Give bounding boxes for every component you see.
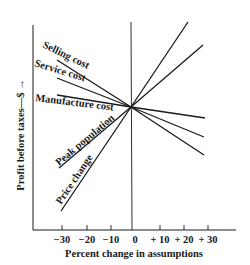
tick-label: −10 [103,234,119,245]
tick-label: + 30 [198,234,217,245]
label-manufacture-cost: Manufacture cost [35,92,115,113]
x-axis-title: Percent change in assumptions [65,248,203,259]
x-tick-labels: −30 −20 −10 0 + 10 + 20 + 30 [54,234,218,245]
sensitivity-chart: −30 −20 −10 0 + 10 + 20 + 30 Percent cha… [0,0,250,265]
tick-label: −20 [79,234,95,245]
tick-label: −30 [54,234,70,245]
line-price-change [61,22,188,211]
tick-label: + 10 [150,234,169,245]
tick-label: 0 [132,234,137,245]
tick-label: + 20 [174,234,193,245]
y-axis-title: Profit before taxes—$ → [15,79,26,190]
x-ticks [62,225,208,230]
zero-reference-line [131,22,132,230]
